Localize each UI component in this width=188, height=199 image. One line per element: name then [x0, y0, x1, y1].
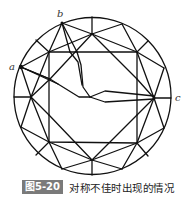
- point-c: [153, 97, 156, 100]
- label-c: c: [175, 92, 181, 103]
- label-b: b: [57, 8, 63, 19]
- figure-caption: 图5-20 对称不佳时出现的情况: [22, 180, 174, 194]
- label-a: a: [9, 61, 15, 72]
- diamond-facet-diagram: a b c: [0, 0, 188, 178]
- figure-number-badge: 图5-20: [22, 180, 63, 194]
- figure-caption-text: 对称不佳时出现的情况: [69, 180, 174, 195]
- point-b: [61, 22, 64, 25]
- point-a: [19, 65, 23, 69]
